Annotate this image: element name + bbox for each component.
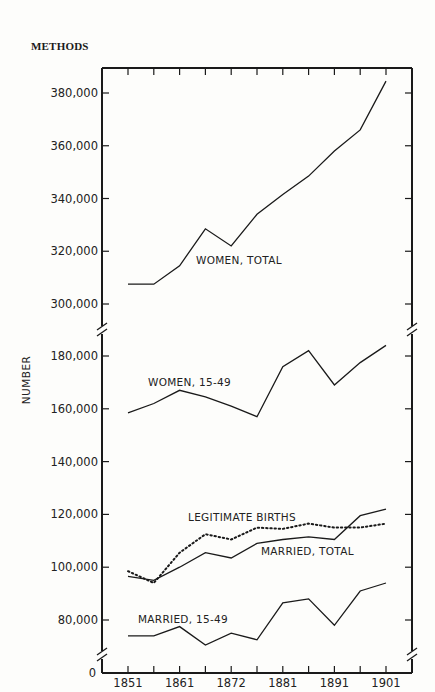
axis-ticks bbox=[102, 68, 412, 673]
x-tick-label: 1861 bbox=[165, 676, 194, 690]
y-tick-label: 120,000 bbox=[50, 507, 98, 521]
x-tick-label: 1881 bbox=[268, 676, 297, 690]
y-tick-label: 300,000 bbox=[50, 297, 98, 311]
plot-frame bbox=[97, 68, 417, 673]
y-tick-label: 340,000 bbox=[50, 192, 98, 206]
x-tick-label: 1851 bbox=[113, 676, 142, 690]
y-axis-title: NUMBER bbox=[20, 356, 32, 405]
y-tick-label: 360,000 bbox=[50, 139, 98, 153]
line-chart: 380,000360,000340,000320,000300,000180,0… bbox=[0, 0, 435, 692]
x-tick-label: 1891 bbox=[320, 676, 349, 690]
y-tick-label: 100,000 bbox=[50, 560, 98, 574]
x-tick-labels: 185118611872188118911901 bbox=[113, 676, 400, 690]
y-tick-label: 320,000 bbox=[50, 244, 98, 258]
y-tick-label: 160,000 bbox=[50, 402, 98, 416]
series-label: WOMEN, TOTAL bbox=[196, 254, 282, 266]
x-tick-label: 1872 bbox=[217, 676, 246, 690]
y-zero-label: 0 bbox=[89, 666, 96, 680]
series-label: MARRIED, 15-49 bbox=[138, 613, 228, 625]
series-labels: WOMEN, TOTALWOMEN, 15-49LEGITIMATE BIRTH… bbox=[138, 254, 354, 625]
y-tick-label: 380,000 bbox=[50, 86, 98, 100]
y-tick-label: 80,000 bbox=[58, 613, 98, 627]
series-lines bbox=[128, 81, 386, 645]
x-tick-label: 1901 bbox=[371, 676, 400, 690]
y-tick-label: 140,000 bbox=[50, 455, 98, 469]
series-label: LEGITIMATE BIRTHS bbox=[188, 511, 296, 523]
series-label: MARRIED, TOTAL bbox=[261, 545, 354, 557]
y-tick-labels: 380,000360,000340,000320,000300,000180,0… bbox=[50, 86, 98, 680]
series-label: WOMEN, 15-49 bbox=[148, 376, 231, 388]
y-tick-label: 180,000 bbox=[50, 349, 98, 363]
